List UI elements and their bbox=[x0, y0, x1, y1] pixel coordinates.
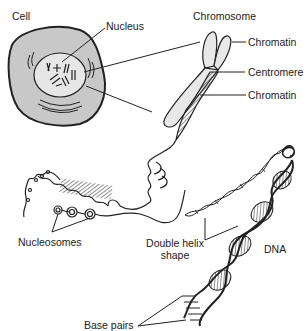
double-helix-label: Double helix shape bbox=[142, 237, 208, 261]
double-helix-label-line2: shape bbox=[142, 249, 208, 261]
centromere-label: Centromere bbox=[248, 66, 303, 78]
dna-label: DNA bbox=[264, 243, 286, 255]
chromosome-shape bbox=[164, 32, 231, 140]
chromatin-fiber bbox=[24, 140, 185, 223]
nucleosomes-label: Nucleosomes bbox=[18, 236, 82, 248]
chromatin-bottom-label: Chromatin bbox=[248, 89, 296, 101]
double-helix-label-line1: Double helix bbox=[142, 237, 208, 249]
chromatin-top-label: Chromatin bbox=[248, 36, 296, 48]
diagram-artwork bbox=[0, 0, 307, 331]
chromosome-label: Chromosome bbox=[193, 10, 256, 22]
cell-label: Cell bbox=[12, 10, 30, 22]
base-pairs-label: Base pairs bbox=[84, 319, 134, 331]
nucleus-label: Nucleus bbox=[106, 20, 144, 32]
dna-structure-diagram: Cell Nucleus Chromosome Chromatin Centro… bbox=[0, 0, 307, 331]
